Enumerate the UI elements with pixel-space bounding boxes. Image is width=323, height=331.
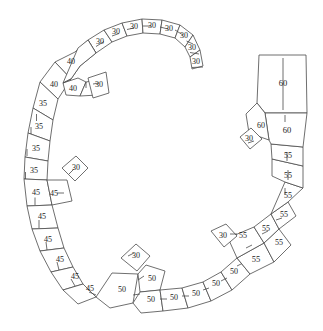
label-br4: 55 <box>262 224 270 233</box>
label-ll5: 45 <box>56 255 64 264</box>
tick-ta8b <box>192 67 203 68</box>
label-ll3: 45 <box>38 212 46 221</box>
diagram-canvas: 30 30 30 30 30 30 30 30 40 40 40 35 35 3… <box>0 0 323 331</box>
group-top-arc: 30 30 30 30 30 30 30 30 <box>88 19 203 69</box>
label-ll2: 45 <box>50 189 58 198</box>
label-rc3: 55 <box>284 151 292 160</box>
label-bt4: 50 <box>170 293 178 302</box>
label-lc1: 35 <box>39 99 47 108</box>
label-d2: 30 <box>72 163 80 172</box>
cell-mesh-svg: 30 30 30 30 30 30 30 30 40 40 40 35 35 3… <box>0 0 323 331</box>
label-ul3: 40 <box>69 84 77 93</box>
label-bt5: 50 <box>192 289 200 298</box>
group-lower-left: 45 45 45 45 45 45 45 <box>24 179 96 304</box>
label-bt6: 50 <box>212 279 220 288</box>
label-br3: 55 <box>239 231 247 240</box>
label-ta8: 30 <box>192 57 200 66</box>
label-ll4: 45 <box>44 235 52 244</box>
label-ll1: 45 <box>32 188 40 197</box>
label-ta1: 30 <box>96 37 104 46</box>
label-d4: 30 <box>219 231 227 240</box>
label-tr2: 60 <box>283 125 292 135</box>
label-br1: 55 <box>252 254 261 264</box>
label-ll6: 45 <box>71 272 79 281</box>
label-bt1: 50 <box>118 285 126 294</box>
label-ta2: 30 <box>112 27 120 36</box>
group-bottom: 50 50 50 50 50 50 50 <box>96 258 250 313</box>
label-ta5: 30 <box>165 24 173 33</box>
label-ta6: 30 <box>180 31 188 40</box>
label-lc2: 35 <box>35 122 43 131</box>
label-br5: 55 <box>280 210 288 219</box>
label-lc4: 35 <box>30 166 38 175</box>
label-lc3: 35 <box>32 144 40 153</box>
group-left-column: 35 35 35 35 <box>24 82 58 180</box>
label-bt2: 50 <box>148 274 156 283</box>
label-d5: 30 <box>245 134 253 143</box>
cell-bt1[interactable] <box>96 273 138 308</box>
label-tr3: 60 <box>257 121 265 130</box>
label-ll7: 45 <box>86 284 94 293</box>
label-ta4: 30 <box>148 21 156 30</box>
label-bt3: 50 <box>147 295 155 304</box>
label-br2: 55 <box>275 238 283 247</box>
label-bt7: 50 <box>230 267 238 276</box>
label-rc1: 55 <box>284 191 292 200</box>
label-tr1: 60 <box>279 78 288 88</box>
label-ul1: 40 <box>67 57 75 66</box>
label-d1: 30 <box>95 80 103 89</box>
label-rc2: 55 <box>284 171 292 180</box>
label-ul2: 40 <box>50 80 58 89</box>
label-d3: 30 <box>132 251 140 260</box>
label-ta7: 30 <box>188 43 196 52</box>
label-ta3: 30 <box>130 22 138 31</box>
